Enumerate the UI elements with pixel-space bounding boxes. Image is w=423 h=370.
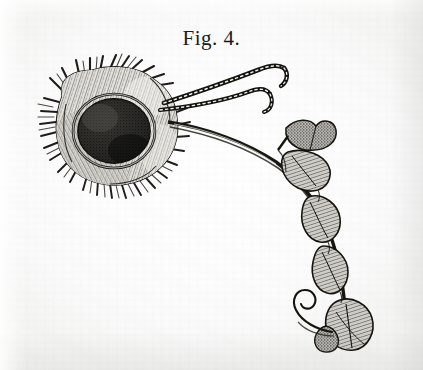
lobe-appendage bbox=[312, 246, 348, 294]
lobe-appendage bbox=[278, 120, 336, 150]
bristly-capsule-group bbox=[38, 54, 190, 198]
lobe-chain-group bbox=[278, 120, 373, 352]
filaments-group bbox=[160, 66, 287, 112]
lobe-appendage bbox=[302, 196, 341, 242]
engraving-plate: Fig. 4. bbox=[0, 0, 423, 370]
figure-caption: Fig. 4. bbox=[0, 26, 423, 51]
terminal-flare bbox=[315, 299, 373, 352]
figure-illustration bbox=[0, 0, 423, 370]
lobe-appendage bbox=[282, 150, 331, 191]
